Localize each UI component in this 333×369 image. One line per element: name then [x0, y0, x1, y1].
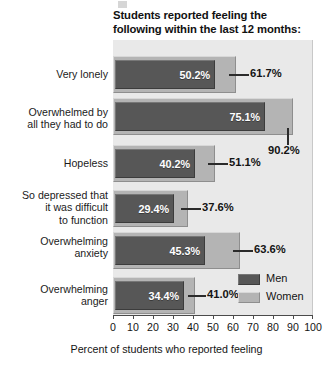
bar-value-men: 29.4% — [138, 203, 169, 215]
legend-item-women[interactable]: Women — [238, 290, 312, 305]
bar-men-anxiety[interactable]: 45.3% — [115, 236, 205, 265]
category-label-line: Overwhelming — [0, 283, 108, 295]
leader-line-very-lonely — [229, 74, 249, 76]
x-axis-tick — [173, 315, 174, 319]
bar-value-men: 50.2% — [179, 69, 210, 81]
legend-item-men[interactable]: Men — [238, 272, 312, 287]
category-label-anger: Overwhelming anger — [0, 283, 108, 308]
chart-title-line-2: following within the last 12 months: — [113, 23, 328, 37]
x-axis-tick-label: 80 — [267, 321, 279, 333]
bar-value-men: 45.3% — [169, 245, 200, 257]
category-label-line: all they had to do — [0, 118, 108, 130]
x-axis-tick-label: 30 — [167, 321, 179, 333]
bar-men-overwhelmed[interactable]: 75.1% — [115, 102, 265, 131]
chart-figure: Students reported feeling the following … — [0, 0, 333, 369]
legend-swatch-men-icon — [238, 274, 260, 285]
bar-men-so-depressed[interactable]: 29.4% — [115, 194, 174, 223]
bar-men-very-lonely[interactable]: 50.2% — [115, 60, 215, 89]
bar-value-women-hopeless: 51.1% — [229, 156, 261, 168]
category-label-hopeless: Hopeless — [0, 157, 108, 169]
legend-label-women: Women — [266, 290, 304, 302]
bar-value-women-anxiety: 63.6% — [254, 243, 286, 255]
x-axis-tick — [253, 315, 254, 319]
leader-line-anger — [188, 295, 206, 297]
bar-value-men: 40.2% — [159, 158, 190, 170]
bar-value-women-anger: 41.0% — [207, 288, 239, 300]
x-axis-tick-label: 10 — [127, 321, 139, 333]
legend-swatch-women-icon — [238, 292, 260, 303]
x-axis-tick — [273, 315, 274, 319]
x-axis-tick — [133, 315, 134, 319]
x-axis-tick-label: 60 — [227, 321, 239, 333]
x-axis-tick — [153, 315, 154, 319]
chart-title-line-1: Students reported feeling the — [113, 9, 328, 23]
leader-line-overwhelmed — [287, 128, 289, 145]
category-label-line: Overwhelming — [0, 235, 108, 247]
x-axis-tick — [213, 315, 214, 319]
x-axis-tick — [312, 315, 313, 319]
leader-line-so-depressed — [181, 208, 201, 210]
x-axis-tick — [113, 315, 114, 319]
x-axis-tick — [233, 315, 234, 319]
legend-label-men: Men — [266, 272, 287, 284]
category-label-line: Very lonely — [0, 68, 108, 80]
x-axis-tick-label: 90 — [287, 321, 299, 333]
x-axis-label: Percent of students who reported feeling — [0, 343, 333, 355]
bar-value-men: 34.4% — [148, 290, 179, 302]
x-axis-tick — [193, 315, 194, 319]
category-label-so-depressed: So depressed that it was difficult to fu… — [0, 189, 108, 226]
category-label-anxiety: Overwhelming anxiety — [0, 235, 108, 260]
bar-value-women-very-lonely: 61.7% — [250, 67, 282, 79]
x-axis-tick-label: 40 — [187, 321, 199, 333]
category-label-line: anxiety — [0, 247, 108, 259]
chart-title: Students reported feeling the following … — [113, 9, 328, 36]
x-axis-tick — [293, 315, 294, 319]
bar-men-hopeless[interactable]: 40.2% — [115, 149, 195, 178]
bar-men-anger[interactable]: 34.4% — [115, 281, 184, 310]
category-label-line: to function — [0, 214, 108, 226]
category-label-very-lonely: Very lonely — [0, 68, 108, 80]
bar-value-women-overwhelmed: 90.2% — [268, 144, 300, 156]
category-label-line: it was difficult — [0, 201, 108, 213]
category-label-line: So depressed that — [0, 189, 108, 201]
leader-line-hopeless — [208, 163, 228, 165]
bar-value-women-so-depressed: 37.6% — [202, 201, 234, 213]
bar-value-men: 75.1% — [229, 111, 260, 123]
category-label-line: Hopeless — [0, 157, 108, 169]
category-label-line: Overwhelmed by — [0, 106, 108, 118]
x-axis-tick-label: 50 — [207, 321, 219, 333]
scan-artifact — [118, 1, 127, 8]
x-axis-tick-label: 70 — [247, 321, 259, 333]
x-axis-tick-label: 100 — [304, 321, 322, 333]
category-label-line: anger — [0, 295, 108, 307]
chart-legend: Men Women — [238, 272, 312, 308]
category-label-overwhelmed: Overwhelmed by all they had to do — [0, 106, 108, 131]
x-axis-tick-label: 0 — [110, 321, 116, 333]
leader-line-anxiety — [233, 250, 253, 252]
x-axis-tick-label: 20 — [147, 321, 159, 333]
